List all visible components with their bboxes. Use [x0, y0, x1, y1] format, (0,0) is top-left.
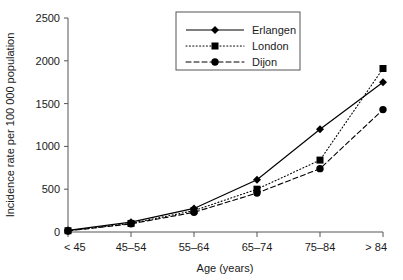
- y-axis-ticks: 05001000150020002500: [36, 12, 68, 238]
- x-axis-title-text: Age (years): [197, 262, 254, 274]
- x-tick-label: 45–54: [116, 241, 147, 253]
- legend-marker-london: [212, 43, 219, 50]
- series-erlangen: [64, 78, 387, 234]
- series-line: [68, 69, 383, 231]
- legend-label-erlangen: Erlangen: [252, 24, 296, 36]
- y-axis-title: Incidence rate per 100 000 population: [4, 33, 16, 218]
- x-tick-label: 75–84: [305, 241, 336, 253]
- y-tick-label: 1000: [36, 140, 60, 152]
- y-axis-title-text: Incidence rate per 100 000 population: [4, 33, 16, 218]
- y-tick-label: 1500: [36, 98, 60, 110]
- data-point: [317, 157, 324, 164]
- incidence-rate-line-chart: Incidence rate per 100 000 population 05…: [0, 0, 403, 280]
- legend-marker-dijon: [211, 58, 218, 65]
- y-tick-label: 500: [42, 183, 60, 195]
- series-london: [65, 65, 387, 234]
- x-tick-label: > 84: [365, 241, 387, 253]
- data-point: [316, 165, 323, 172]
- data-point: [380, 65, 387, 72]
- series-dijon: [64, 106, 386, 235]
- y-tick-label: 2000: [36, 55, 60, 67]
- data-point: [64, 227, 71, 234]
- y-tick-label: 2500: [36, 12, 60, 24]
- chart-legend: ErlangenLondonDijon: [176, 12, 300, 70]
- data-series-layer: [64, 65, 387, 235]
- x-axis-ticks: < 4545–5455–6465–7475–84> 84: [64, 232, 387, 253]
- x-tick-label: < 45: [64, 241, 86, 253]
- series-line: [68, 82, 383, 230]
- legend-label-dijon: Dijon: [252, 56, 277, 68]
- x-tick-label: 55–64: [179, 241, 210, 253]
- data-point: [190, 209, 197, 216]
- series-line: [68, 110, 383, 231]
- chart-canvas: Incidence rate per 100 000 population 05…: [0, 0, 403, 280]
- data-point: [127, 220, 134, 227]
- legend-label-london: London: [252, 40, 289, 52]
- data-point: [379, 106, 386, 113]
- y-tick-label: 0: [54, 226, 60, 238]
- data-point: [253, 189, 260, 196]
- x-tick-label: 65–74: [242, 241, 273, 253]
